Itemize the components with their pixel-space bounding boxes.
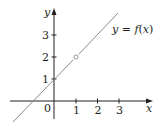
y-tick-label-2: 2	[42, 51, 49, 64]
function-graph: 0 1 2 3 1 2 3 x y y = f(x)	[0, 0, 161, 129]
curve-label-eq: =	[118, 23, 134, 36]
origin-label: 0	[44, 102, 51, 115]
x-tick-label-2: 2	[95, 104, 102, 117]
y-axis-arrow-icon	[52, 8, 57, 15]
x-tick-label-3: 3	[116, 104, 123, 117]
open-circle-hole	[74, 55, 78, 59]
y-axis-label: y	[43, 6, 51, 19]
y-tick-label-1: 1	[42, 73, 49, 86]
curve-label: y = f(x)	[111, 23, 153, 36]
y-tick-label-3: 3	[42, 29, 49, 42]
x-tick-label-1: 1	[73, 104, 80, 117]
x-axis-label: x	[146, 102, 153, 115]
curve-label-close: )	[149, 23, 153, 36]
